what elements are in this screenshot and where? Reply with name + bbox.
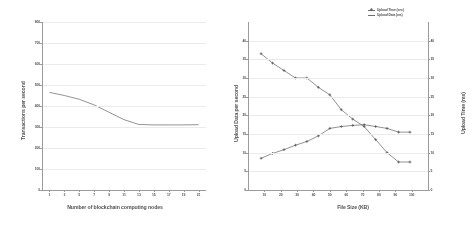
gridline: [42, 43, 206, 44]
x-tick-label: 40: [312, 193, 316, 197]
right-x-axis-label: File Size (KB): [230, 204, 476, 210]
x-tick-mark: [109, 190, 110, 192]
chart-left: Transactions per second 0100200300400500…: [0, 0, 230, 225]
y-tick-label: 35: [234, 57, 246, 61]
x-tick-label: 30: [295, 193, 299, 197]
left-series-svg: [42, 22, 208, 192]
y-tick-label: 40: [234, 39, 246, 43]
x-tick-label: 60: [344, 193, 348, 197]
right-y-tick-mark: [428, 41, 430, 42]
gridline: [248, 134, 428, 135]
x-tick-label: 19: [182, 193, 186, 197]
x-tick-mark: [395, 190, 396, 192]
gridline: [248, 41, 428, 42]
figure-container: Transactions per second 0100200300400500…: [0, 0, 476, 225]
y-tick-mark: [40, 22, 42, 23]
right-y-tick-mark: [428, 78, 430, 79]
y-tick-mark: [40, 148, 42, 149]
legend-swatch: [368, 15, 375, 16]
right-y-tick-label: 5: [431, 169, 439, 173]
x-tick-mark: [139, 190, 140, 192]
x-tick-mark: [412, 190, 413, 192]
x-tick-label: 21: [197, 193, 201, 197]
right-y-tick-label: 15: [431, 132, 439, 136]
y-tick-label: 800: [28, 20, 40, 24]
y-tick-label: 0: [234, 188, 246, 192]
y-axis-line: [248, 22, 249, 190]
legend-label: Upload Data (ms): [377, 13, 403, 17]
right-y-tick-label: 0: [431, 188, 439, 192]
right-y-tick-mark: [428, 171, 430, 172]
x-tick-mark: [346, 190, 347, 192]
right-series-svg: [248, 22, 430, 192]
x-tick-label: 80: [377, 193, 381, 197]
x-tick-mark: [363, 190, 364, 192]
legend-label: Upload Time (sec): [377, 8, 404, 12]
right-y-tick-mark: [428, 59, 430, 60]
x-tick-mark: [64, 190, 65, 192]
right-y-tick-mark: [428, 190, 430, 191]
x-tick-label: 50: [328, 193, 332, 197]
right-y-tick-label: 10: [431, 151, 439, 155]
x-tick-mark: [79, 190, 80, 192]
gridline: [42, 106, 206, 107]
y-tick-mark: [246, 59, 248, 60]
y-tick-mark: [246, 41, 248, 42]
right-y-tick-mark: [428, 115, 430, 116]
left-y-axis-label: Transactions per second: [20, 81, 26, 140]
y-tick-label: 20: [234, 113, 246, 117]
series-line: [261, 54, 410, 162]
y-axis-line: [42, 22, 43, 190]
data-point-marker: [283, 148, 286, 151]
x-tick-label: 13: [137, 193, 141, 197]
y-tick-label: 0: [28, 188, 40, 192]
gridline: [42, 85, 206, 86]
y-tick-label: 700: [28, 41, 40, 45]
x-tick-mark: [169, 190, 170, 192]
data-point-marker: [260, 157, 263, 160]
right-y-axis-line: [428, 22, 429, 190]
y-tick-label: 30: [234, 76, 246, 80]
right-y-tick-mark: [428, 134, 430, 135]
x-tick-label: 90: [393, 193, 397, 197]
y-tick-label: 600: [28, 62, 40, 66]
right-y-tick-mark: [428, 153, 430, 154]
x-tick-mark: [49, 190, 50, 192]
y-tick-mark: [246, 78, 248, 79]
y-tick-mark: [246, 134, 248, 135]
gridline: [42, 169, 206, 170]
data-point-marker: [340, 125, 343, 128]
y-tick-label: 25: [234, 95, 246, 99]
right-y-tick-label: 40: [431, 39, 439, 43]
x-tick-label: 3: [63, 193, 65, 197]
x-tick-mark: [199, 190, 200, 192]
y-tick-mark: [40, 64, 42, 65]
right-y-tick-label: 20: [431, 113, 439, 117]
chart-right: Upload Data per second Upload Time (ms) …: [230, 0, 476, 225]
x-tick-label: 7: [93, 193, 95, 197]
y-tick-label: 300: [28, 125, 40, 129]
data-point-marker: [351, 124, 354, 127]
x-tick-mark: [330, 190, 331, 192]
gridline: [42, 22, 206, 23]
data-point-marker: [306, 140, 309, 143]
right-y-tick-mark: [428, 97, 430, 98]
series-line: [49, 92, 198, 125]
y-tick-mark: [40, 106, 42, 107]
x-axis-line: [248, 190, 428, 191]
data-point-marker: [409, 161, 412, 164]
x-tick-label: 17: [167, 193, 171, 197]
y-tick-mark: [246, 171, 248, 172]
x-tick-mark: [124, 190, 125, 192]
gridline: [248, 78, 428, 79]
data-point-marker: [386, 127, 389, 130]
y-tick-mark: [40, 127, 42, 128]
gridline: [248, 171, 428, 172]
left-x-axis-label: Number of blockchain computing nodes: [0, 204, 230, 210]
gridline: [248, 153, 428, 154]
y-tick-mark: [246, 190, 248, 191]
x-tick-label: 20: [279, 193, 283, 197]
x-tick-label: 5: [78, 193, 80, 197]
data-point-marker: [294, 144, 297, 147]
x-tick-mark: [379, 190, 380, 192]
